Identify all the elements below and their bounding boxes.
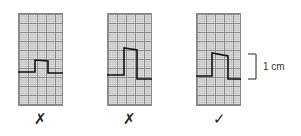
correct-check-icon: ✓ [213,110,226,128]
scale-bracket [248,54,256,79]
incorrect-mark-icon: ✗ [123,110,136,128]
calibration-pulse-1 [18,60,63,73]
scale-label: 1 cm [263,61,285,72]
calibration-pulse-3 [196,53,241,79]
incorrect-mark-icon: ✗ [34,110,47,128]
calibration-pulse-2 [107,48,152,79]
